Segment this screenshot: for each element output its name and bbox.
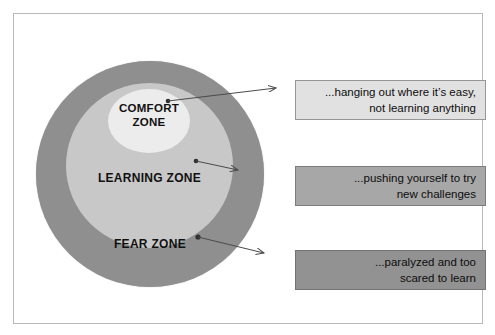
comfort-zone-callout: ...hanging out where it’s easy, not lear… [295,80,486,120]
comfort-zone-label: COMFORT ZONE [108,101,190,129]
learning-zone-label: LEARNING ZONE [66,171,233,186]
figure-canvas: COMFORT ZONE LEARNING ZONE FEAR ZONE ...… [0,0,495,335]
fear-zone-label: FEAR ZONE [46,237,254,252]
figure-frame: COMFORT ZONE LEARNING ZONE FEAR ZONE ...… [13,13,483,324]
learning-zone-callout: ...pushing yourself to try new challenge… [295,166,486,206]
fear-zone-callout: ...paralyzed and too scared to learn [295,250,486,290]
